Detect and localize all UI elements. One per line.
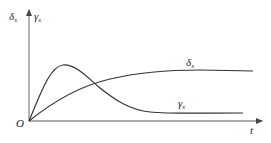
x-axis-label: t — [250, 124, 254, 136]
y-axis-label-delta: δs — [9, 10, 17, 24]
response-curves-diagram: δs γs δs γs O t — [0, 0, 271, 143]
gamma-s-curve — [29, 65, 243, 121]
origin-label: O — [16, 117, 24, 129]
y-axis-label-gamma: γs — [34, 10, 41, 24]
gamma-s-curve-label: γs — [178, 97, 185, 111]
delta-s-curve-label: δs — [186, 56, 194, 70]
